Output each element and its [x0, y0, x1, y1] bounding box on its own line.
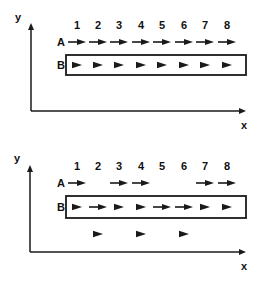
row-b-arrowhead-icon — [114, 204, 124, 210]
row-b-arrow-icon — [153, 204, 171, 210]
top-panel: yx12345678AB — [15, 11, 248, 131]
y-axis-label: y — [15, 11, 22, 23]
arrow-head — [77, 39, 86, 45]
row-a-arrow-icon — [218, 180, 236, 186]
row-b-arrowhead-icon — [222, 62, 232, 68]
arrow-head — [119, 39, 128, 45]
x-axis-arrowhead-icon — [239, 249, 246, 255]
column-label: 5 — [159, 19, 165, 31]
row-b-arrowhead-icon — [93, 62, 103, 68]
column-label: 7 — [202, 160, 208, 172]
x-axis-arrowhead-icon — [239, 108, 246, 114]
row-b-arrow-icon — [175, 204, 193, 210]
arrow-head — [98, 204, 107, 210]
row-a-arrow-icon — [153, 39, 171, 45]
arrow-head — [184, 39, 193, 45]
row-label-b: B — [57, 59, 65, 71]
row-b-arrowhead-icon — [200, 204, 210, 210]
column-label: 8 — [224, 160, 230, 172]
arrow-head — [227, 39, 236, 45]
diagram-canvas: yx12345678AByx12345678AB — [0, 0, 260, 283]
arrow-head — [205, 39, 214, 45]
row-a-arrow-icon — [196, 39, 214, 45]
below-b-arrowhead-icon — [179, 231, 189, 237]
y-axis-label: y — [14, 152, 21, 164]
column-label: 7 — [202, 19, 208, 31]
row-b-arrowhead-icon — [114, 62, 124, 68]
row-b-arrow-icon — [89, 204, 107, 210]
arrow-head — [162, 204, 171, 210]
column-label: 3 — [116, 19, 122, 31]
row-b-arrowhead-icon — [72, 62, 82, 68]
row-a-arrow-icon — [110, 39, 128, 45]
row-a-arrow-icon — [175, 39, 193, 45]
row-a-arrow-icon — [218, 39, 236, 45]
column-label: 6 — [181, 160, 187, 172]
arrow-head — [162, 39, 171, 45]
row-b-arrowhead-icon — [179, 62, 189, 68]
y-axis-arrowhead-icon — [28, 23, 34, 30]
column-label: 8 — [224, 19, 230, 31]
x-axis-label: x — [241, 260, 248, 272]
row-a-arrow-icon — [132, 180, 150, 186]
row-a-arrow-icon — [89, 39, 107, 45]
column-label: 3 — [116, 160, 122, 172]
row-label-a: A — [57, 177, 65, 189]
row-b-arrowhead-icon — [72, 204, 82, 210]
arrow-head — [227, 180, 236, 186]
arrow-head — [77, 180, 86, 186]
x-axis-label: x — [241, 119, 248, 131]
column-label: 1 — [74, 160, 80, 172]
row-a-arrow-icon — [132, 39, 150, 45]
row-b-arrowhead-icon — [157, 62, 167, 68]
arrow-head — [141, 180, 150, 186]
arrow-head — [184, 204, 193, 210]
column-label: 4 — [138, 19, 145, 31]
row-b-arrowhead-icon — [200, 62, 210, 68]
column-label: 6 — [181, 19, 187, 31]
arrow-head — [141, 39, 150, 45]
row-label-a: A — [57, 36, 65, 48]
row-a-arrow-icon — [68, 39, 86, 45]
bottom-panel: yx12345678AB — [14, 152, 248, 272]
column-label: 2 — [95, 160, 101, 172]
column-label: 4 — [138, 160, 145, 172]
y-axis-arrowhead-icon — [27, 165, 33, 172]
row-a-arrow-icon — [110, 180, 128, 186]
row-b-arrowhead-icon — [136, 204, 146, 210]
column-label: 5 — [159, 160, 165, 172]
column-label: 2 — [95, 19, 101, 31]
row-a-arrow-icon — [68, 180, 86, 186]
below-b-arrowhead-icon — [93, 231, 103, 237]
row-a-arrow-icon — [196, 180, 214, 186]
row-b-arrowhead-icon — [136, 62, 146, 68]
row-label-b: B — [57, 201, 65, 213]
arrow-head — [98, 39, 107, 45]
arrow-head — [205, 180, 214, 186]
arrow-head — [119, 180, 128, 186]
below-b-arrowhead-icon — [136, 231, 146, 237]
row-b-arrowhead-icon — [222, 204, 232, 210]
column-label: 1 — [74, 19, 80, 31]
